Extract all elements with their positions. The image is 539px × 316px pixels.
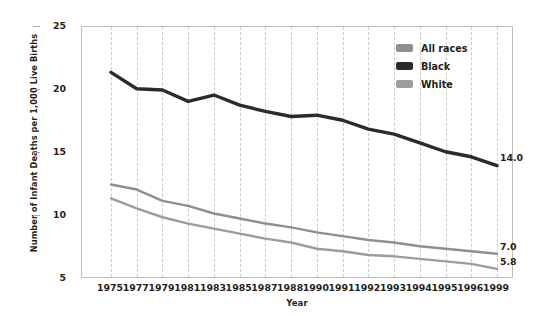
series-line-white (111, 198, 497, 269)
x-axis-tick-labels: 1975197719791981198319851987198819901991… (0, 283, 539, 299)
legend-swatch-icon (396, 62, 413, 70)
y-axis-tick-labels: 252015105 (42, 0, 66, 316)
x-axis-title: Year (81, 298, 513, 308)
y-tick-label-15: 15 (44, 147, 66, 156)
y-tick-mark-25 (33, 26, 40, 27)
y-tick-mark-20 (33, 89, 40, 90)
x-tick-label-1999: 1999 (476, 283, 516, 292)
y-tick-mark-15 (33, 152, 40, 153)
y-tick-label-5: 5 (44, 273, 66, 282)
legend-item-white: White (396, 76, 516, 92)
legend-swatch-icon (396, 44, 413, 52)
y-tick-label-20: 20 (44, 84, 66, 93)
legend-swatch-icon (396, 80, 413, 88)
y-tick-label-10: 10 (44, 210, 66, 219)
legend-label: All races (421, 43, 467, 54)
y-tick-label-25: 25 (44, 21, 66, 30)
infant-mortality-line-chart: Number of Infant Deaths per 1,000 Live B… (0, 0, 539, 316)
y-axis-title: Number of Infant Deaths per 1,000 Live B… (29, 23, 39, 263)
legend-item-all-races: All races (396, 40, 516, 56)
y-tick-mark-10 (33, 215, 40, 216)
all-races-end-label: 7.0 (500, 242, 517, 251)
legend-label: White (421, 79, 453, 90)
black-end-label: 14.0 (500, 153, 523, 162)
white-end-label: 5.8 (500, 257, 517, 266)
legend-item-black: Black (396, 58, 516, 74)
legend-label: Black (421, 61, 450, 72)
chart-legend: All racesBlackWhite (396, 40, 516, 94)
